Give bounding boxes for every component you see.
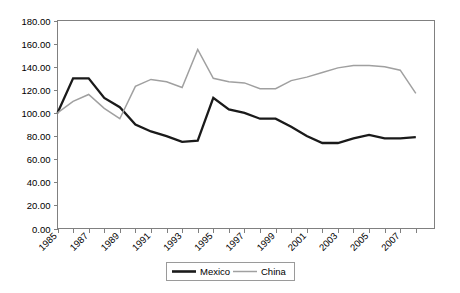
plot-area-border (58, 21, 435, 229)
y-tick-label: 20.00 (27, 200, 51, 211)
x-tick-label: 1989 (99, 230, 122, 253)
y-tick-label: 40.00 (27, 177, 51, 188)
series-line-china (58, 49, 416, 118)
chart-canvas: 0.0020.0040.0060.0080.00100.00120.00140.… (0, 0, 460, 293)
chart-legend: Mexico China (167, 263, 295, 281)
x-tick-label: 1997 (223, 230, 246, 253)
y-tick-label: 120.00 (21, 85, 50, 96)
x-tick-label: 1991 (130, 230, 153, 253)
line-chart: 0.0020.0040.0060.0080.00100.00120.00140.… (0, 0, 460, 293)
x-tick-label: 1999 (254, 230, 277, 253)
y-tick-label: 100.00 (21, 108, 50, 119)
legend-item-china: China (233, 266, 287, 277)
x-tick-label: 1993 (161, 230, 184, 253)
y-tick-label: 140.00 (21, 62, 50, 73)
x-tick-label: 2005 (348, 230, 371, 253)
y-axis-labels: 0.0020.0040.0060.0080.00100.00120.00140.… (21, 16, 50, 235)
x-tick-label: 2003 (317, 230, 340, 253)
x-tick-label: 1995 (192, 230, 215, 253)
x-axis-labels: 1985198719891991199319951997199920012003… (36, 230, 401, 253)
y-axis-ticks (54, 22, 58, 230)
legend-item-mexico: Mexico (172, 266, 230, 277)
x-tick-label: 2001 (285, 230, 308, 253)
series-line-mexico (58, 78, 416, 143)
legend-label-mexico: Mexico (200, 266, 230, 277)
legend-label-china: China (261, 266, 287, 277)
y-tick-label: 60.00 (27, 154, 51, 165)
x-tick-label: 2007 (379, 230, 402, 253)
x-tick-label: 1987 (67, 230, 90, 253)
y-tick-label: 80.00 (27, 131, 51, 142)
y-tick-label: 160.00 (21, 39, 50, 50)
y-tick-label: 180.00 (21, 16, 50, 27)
